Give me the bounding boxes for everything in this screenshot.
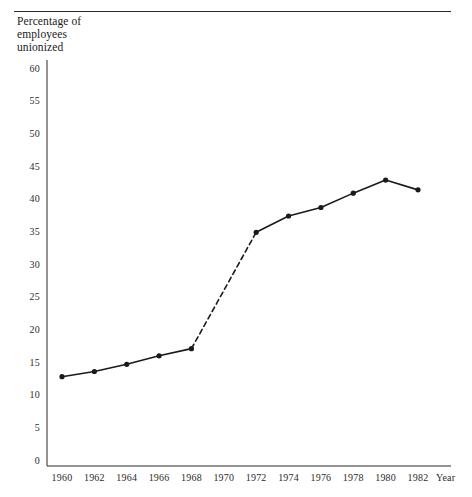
y-tick-label: 15 (8, 357, 40, 368)
data-line-segment (289, 208, 321, 216)
data-point-marker (156, 353, 161, 358)
data-point-marker (286, 213, 291, 218)
y-tick-label: 0 (8, 455, 40, 466)
y-tick-label: 60 (8, 63, 40, 74)
y-tick-label: 55 (8, 95, 40, 106)
data-point-marker (254, 230, 259, 235)
data-point-marker (351, 191, 356, 196)
y-tick-label: 25 (8, 291, 40, 302)
data-line-segment (353, 180, 385, 193)
data-point-marker (415, 187, 420, 192)
data-line-segment (256, 216, 288, 232)
plot-area: 0510152025303540455055601960196219641966… (0, 0, 472, 497)
chart-figure: Percentage of employees unionized 051015… (0, 0, 472, 497)
data-point-marker (92, 369, 97, 374)
chart-svg (0, 0, 472, 497)
y-tick-label: 35 (8, 226, 40, 237)
y-tick-label: 10 (8, 389, 40, 400)
data-line-segment (62, 371, 94, 376)
y-tick-label: 5 (8, 422, 40, 433)
data-line-segment (94, 364, 126, 371)
y-tick-label: 45 (8, 161, 40, 172)
y-tick-label: 30 (8, 259, 40, 270)
y-tick-label: 20 (8, 324, 40, 335)
data-point-marker (189, 346, 194, 351)
data-line-segment (127, 356, 159, 364)
data-line-segment (159, 349, 191, 356)
data-line-segment-dashed (191, 232, 256, 348)
data-line-segment (386, 180, 418, 190)
data-line-segment (321, 193, 353, 207)
data-point-marker (59, 374, 64, 379)
data-point-marker (383, 177, 388, 182)
data-point-marker (318, 205, 323, 210)
y-tick-label: 50 (8, 128, 40, 139)
x-axis-name: Year (436, 472, 455, 483)
data-point-marker (124, 362, 129, 367)
y-tick-label: 40 (8, 193, 40, 204)
x-tick-label: 1982 (396, 472, 440, 483)
